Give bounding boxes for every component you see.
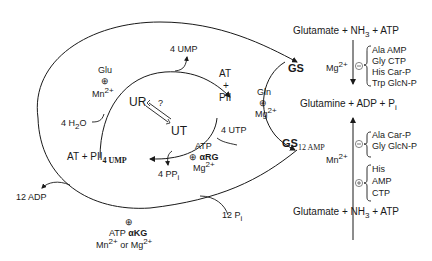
gln-activate-sign: ⊕ <box>259 98 267 108</box>
adp-release-arrow <box>42 182 70 188</box>
at-plus-label: + <box>223 80 229 91</box>
top-reactants: Glutamate + NH3 + ATP <box>293 25 399 39</box>
ur-label: UR <box>129 95 147 109</box>
utp-input-curve <box>217 138 237 145</box>
activator-3: CTP <box>372 188 390 198</box>
activator-brace <box>364 165 371 201</box>
ump-release-arrow <box>175 57 187 71</box>
glu-activate-sign: ⊕ <box>101 76 109 86</box>
bottom-inhibitor-1: Ala Car-P <box>372 130 411 140</box>
ump-label: 4 UMP <box>170 44 198 54</box>
top-inhibitor-brace <box>364 46 371 86</box>
adp-label: 12 ADP <box>16 192 47 202</box>
outer-activate-sign: ⊕ <box>125 217 133 227</box>
glu-label: Glu <box>98 65 112 75</box>
products: Glutamine + ADP + Pi <box>300 98 397 112</box>
bottom-inhibitor-brace <box>364 132 371 157</box>
gs-label: GS <box>288 62 304 74</box>
pi-label: 12 Pi <box>222 210 243 223</box>
activator-1: His <box>372 164 385 174</box>
gs-regulation-diagram: Glu ⊕ Mn2+ 4 UMP 4 H2O UR ? UT AT + PII … <box>0 0 432 261</box>
ur-ut-question: ? <box>158 98 163 108</box>
utp-label: 4 UTP <box>221 125 247 135</box>
bottom-inhibitor-2: Gly GlcN-P <box>372 141 417 151</box>
ppi-label: 4 PPi <box>158 169 180 182</box>
glu-mn-label: Mn2+ <box>92 86 114 99</box>
mn-cofactor-label: Mn2+ <box>326 152 348 165</box>
pii-label: PII <box>219 92 231 103</box>
activator-2: AMP <box>372 176 392 186</box>
mg-cofactor-label: Mg2+ <box>326 60 348 73</box>
top-inhibitor-2: Gly CTP <box>372 56 406 66</box>
at-top-label: AT <box>219 68 231 79</box>
bottom-reactants: Glutamate + NH3 + ATP <box>293 206 399 220</box>
ut-atp-label: ATP <box>195 141 212 151</box>
at-pii-ump-label: AT + PII4 UMP <box>67 151 127 165</box>
gln-label: Gln <box>257 87 271 97</box>
top-inhibitor-4: Trp GlcN-P <box>372 78 417 88</box>
diagram-canvas: Glu ⊕ Mn2+ 4 UMP 4 H2O UR ? UT AT + PII … <box>0 0 432 261</box>
top-inhibitor-3: His Car-P <box>372 67 411 77</box>
ut-label: UT <box>171 124 188 138</box>
outer-ion-label: Mn2+ or Mg2+ <box>96 237 153 250</box>
water-input-curve <box>92 114 104 122</box>
water-label: 4 H2O <box>61 118 86 131</box>
gs12amp-label: GS12 AMP <box>282 137 325 152</box>
top-inhibitor-1: Ala AMP <box>372 45 407 55</box>
